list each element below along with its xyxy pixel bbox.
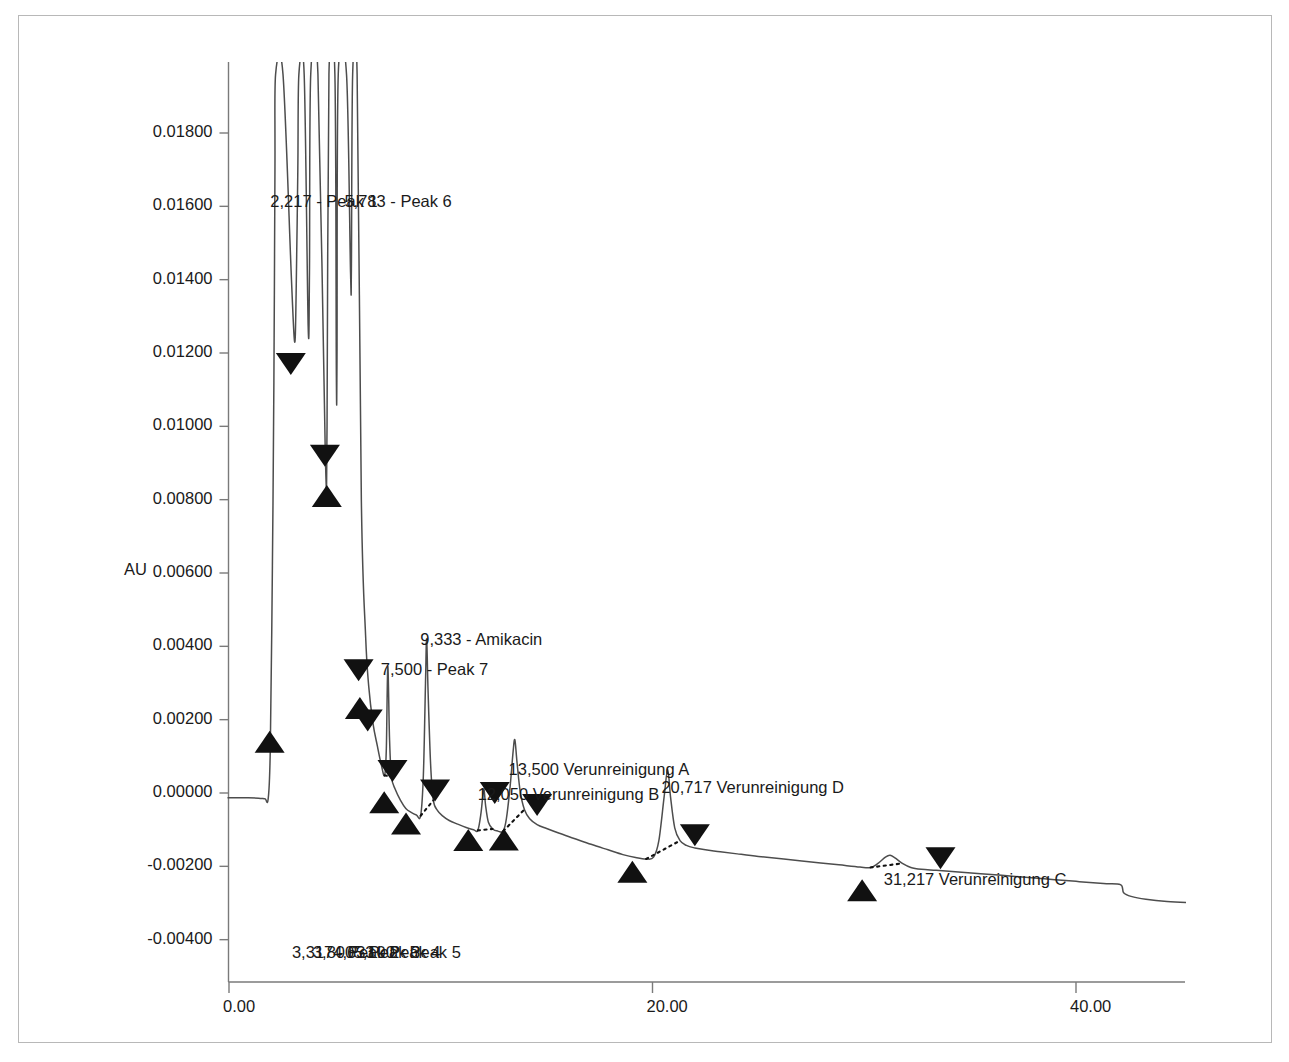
marker-start-peak4 — [312, 485, 342, 507]
baseline-bl-verb — [478, 829, 493, 830]
marker-start-vera — [489, 829, 519, 851]
marker-end-verd — [680, 824, 710, 846]
y-tick-label: 0.00200 — [0, 709, 213, 728]
marker-end-peak4 — [344, 659, 374, 681]
label-peak7-text: 7,500 - Peak 7 — [381, 660, 488, 678]
label-peak6: 5,783 - Peak 6 — [344, 192, 451, 211]
label-verc: 31,217 Verunreinigung C — [884, 870, 1067, 889]
y-tick-label: 0.01400 — [0, 269, 213, 288]
marker-end-peak3 — [310, 445, 340, 467]
label-peak6-text: 5,783 - Peak 6 — [344, 192, 451, 210]
label-amikacin: 9,333 - Amikacin — [420, 630, 542, 649]
y-tick-label: 0.00800 — [0, 489, 213, 508]
x-tick-label: 0.00 — [223, 997, 255, 1016]
y-tick-label: 0.00000 — [0, 782, 213, 801]
y-tick-label: 0.01200 — [0, 342, 213, 361]
x-axis-ticks — [229, 982, 1076, 993]
label-verc-text: 31,217 Verunreinigung C — [884, 870, 1067, 888]
peak-markers — [255, 353, 956, 901]
marker-start-peak1 — [255, 731, 285, 753]
y-tick-label: 0.01600 — [0, 195, 213, 214]
x-tick-label: 20.00 — [647, 997, 688, 1016]
baseline-bl-verd — [646, 841, 680, 859]
chromatogram-page: AU 0.018000.016000.014000.012000.010000.… — [0, 0, 1289, 1062]
y-tick-label: 0.01800 — [0, 122, 213, 141]
label-verd-text: 20,717 Verunreinigung D — [661, 778, 844, 796]
y-tick-label: 0.00400 — [0, 635, 213, 654]
label-verb: 12,050 Verunreinigung B — [478, 785, 660, 804]
label-peak5-text: 5,100 - Peak 5 — [354, 943, 461, 961]
label-verd: 20,717 Verunreinigung D — [661, 778, 844, 797]
x-tick-label: 40.00 — [1070, 997, 1111, 1016]
marker-end-peak6 — [353, 709, 383, 731]
marker-start-verd — [617, 861, 647, 883]
marker-start-verc — [847, 879, 877, 901]
y-tick-label: -0.00200 — [0, 855, 213, 874]
y-tick-label: 0.00600 — [0, 562, 213, 581]
label-verb-text: 12,050 Verunreinigung B — [478, 785, 660, 803]
label-amikacin-text: 9,333 - Amikacin — [420, 630, 542, 648]
trace-detector-trace — [201, 33, 1215, 903]
y-tick-label: 0.01000 — [0, 415, 213, 434]
marker-end-amikacin — [420, 779, 450, 801]
y-tick-label: -0.00400 — [0, 929, 213, 948]
label-peak7: 7,500 - Peak 7 — [381, 660, 488, 679]
chromatogram-plot — [0, 0, 1289, 1062]
marker-start-verb — [453, 829, 483, 851]
marker-end-peak1 — [276, 353, 306, 375]
marker-start-peak7 — [369, 791, 399, 813]
label-peak5: 5,100 - Peak 5 — [354, 943, 461, 962]
y-axis-ticks — [220, 133, 229, 940]
label-vera: 13,500 Verunreinigung A — [509, 760, 690, 779]
label-vera-text: 13,500 Verunreinigung A — [509, 760, 690, 778]
marker-end-verc — [925, 847, 955, 869]
